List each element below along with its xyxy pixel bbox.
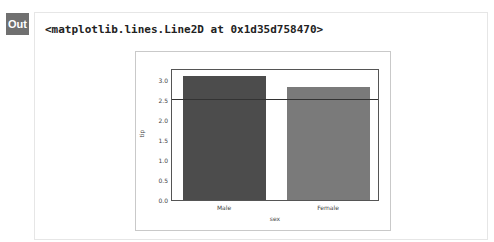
y-tick-label: 1.0 <box>146 157 168 164</box>
x-axis-label: sex <box>172 215 378 222</box>
y-axis-label: tip <box>138 130 145 138</box>
output-repr-text: <matplotlib.lines.Line2D at 0x1d35d75847… <box>45 23 323 36</box>
x-tick-label-male: Male <box>194 204 254 211</box>
output-area: <matplotlib.lines.Line2D at 0x1d35d75847… <box>34 12 488 240</box>
output-prompt-badge: Out <box>6 13 29 35</box>
y-tick-label: 1.5 <box>146 137 168 144</box>
y-tick-label: 0.0 <box>146 197 168 204</box>
y-tick-label: 2.0 <box>146 117 168 124</box>
chart-axes: 0.0 0.5 1.0 1.5 2.0 2.5 3.0 Male Female … <box>171 69 379 201</box>
y-tick-label: 0.5 <box>146 177 168 184</box>
bar-female <box>287 87 370 200</box>
bar-male <box>183 76 266 200</box>
x-tick-label-female: Female <box>298 204 358 211</box>
mean-reference-line <box>172 99 378 100</box>
chart-figure: 0.0 0.5 1.0 1.5 2.0 2.5 3.0 Male Female … <box>135 51 391 231</box>
y-tick-label: 3.0 <box>146 77 168 84</box>
y-tick-label: 2.5 <box>146 97 168 104</box>
